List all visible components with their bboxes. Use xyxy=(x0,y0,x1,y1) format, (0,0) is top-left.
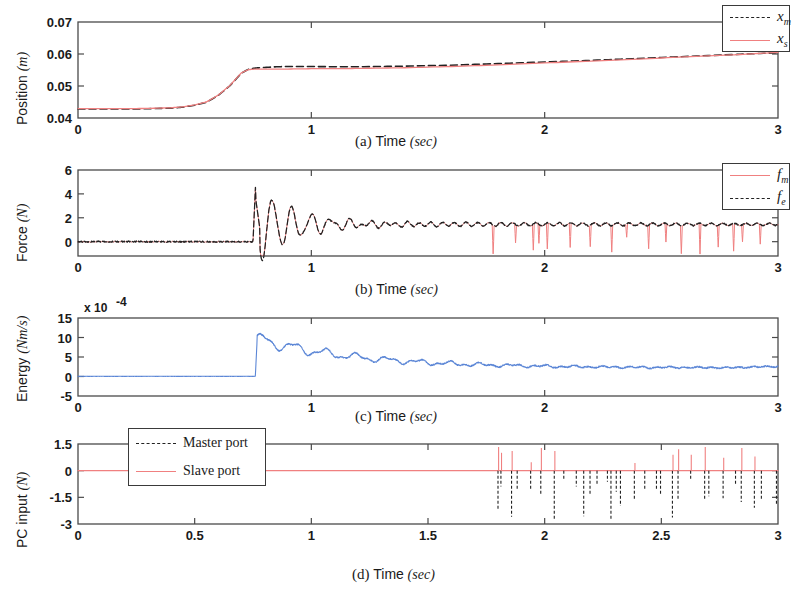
x-tick-label: 0 xyxy=(74,122,81,137)
panel-c-energy: 0123-5051015x 10-4 xyxy=(0,300,801,425)
x-tick-label: 1 xyxy=(308,400,315,415)
x-tick-label: 1 xyxy=(308,122,315,137)
panel-d-caption: (d) Time (sec) xyxy=(352,566,435,583)
y-tick-label: -3 xyxy=(60,517,72,532)
panel-d-plot: 00.511.522.53-3-1.501.5 xyxy=(0,430,801,560)
y-tick-label: 0.06 xyxy=(47,47,72,62)
dashed-line-sample-icon xyxy=(730,11,770,23)
solid-line-sample-icon xyxy=(730,169,770,181)
panel-a-position: 01230.040.050.060.07 xyxy=(0,0,801,150)
x-tick-label: 2 xyxy=(541,260,548,275)
legend-label-fm: fm xyxy=(777,166,788,185)
y-tick-label: 10 xyxy=(58,331,72,346)
panel-d-legend: Master port Slave port xyxy=(128,428,266,486)
legend-item-xm: xm xyxy=(723,6,789,29)
y-tick-label: 1.5 xyxy=(54,437,72,452)
panel-a-caption: (a) Time (sec) xyxy=(355,133,437,150)
panel-b-force: 01230246 xyxy=(0,160,801,290)
x-tick-label: 2 xyxy=(541,122,548,137)
x-tick-label: 2 xyxy=(541,400,548,415)
x-tick-label: 3 xyxy=(774,528,781,543)
x-tick-label: 3 xyxy=(774,260,781,275)
y-tick-label: 6 xyxy=(65,163,72,178)
dashed-line-sample-icon xyxy=(730,192,770,204)
y-axis-multiplier: x 10 xyxy=(84,301,108,315)
series-f_e xyxy=(78,187,778,260)
panel-a-plot: 01230.040.050.060.07 xyxy=(0,0,801,150)
panel-d-ylabel: PC input (N) xyxy=(14,472,31,548)
x-tick-label: 2 xyxy=(541,528,548,543)
panel-b-plot: 01230246 xyxy=(0,160,801,290)
series-f_m xyxy=(78,187,778,255)
solid-line-sample-icon xyxy=(136,465,176,477)
panel-a-legend: xm xs xyxy=(722,5,790,52)
panel-c-ylabel: Energy (Nm/s) xyxy=(14,316,31,402)
panel-b-caption: (b) Time (sec) xyxy=(355,281,438,298)
x-tick-label: 0.5 xyxy=(186,528,204,543)
y-tick-label: 0.05 xyxy=(47,79,72,94)
series-x_s xyxy=(78,52,778,108)
y-tick-label: 4 xyxy=(65,187,73,202)
legend-label-xm: xm xyxy=(777,8,791,27)
y-tick-label: 0 xyxy=(65,464,72,479)
solid-line-sample-icon xyxy=(730,34,770,46)
y-tick-label: -1.5 xyxy=(50,490,72,505)
x-tick-label: 1 xyxy=(308,528,315,543)
legend-item-fe: fe xyxy=(723,187,789,210)
legend-item-xs: xs xyxy=(723,29,789,52)
dashed-line-sample-icon xyxy=(136,437,176,449)
series-x_m xyxy=(78,53,778,109)
x-tick-label: 0 xyxy=(74,260,81,275)
legend-label-fe: fe xyxy=(777,188,786,207)
slave-port-spikes xyxy=(499,447,755,471)
legend-label-xs: xs xyxy=(777,30,788,49)
figure-container: 01230.040.050.060.07 Position (m) xm xs … xyxy=(0,0,801,592)
y-tick-label: 0.04 xyxy=(47,111,73,126)
x-tick-label: 3 xyxy=(774,400,781,415)
panel-b-ylabel: Force (N) xyxy=(14,204,31,262)
x-tick-label: 1 xyxy=(308,260,315,275)
y-tick-label: -5 xyxy=(60,389,72,404)
legend-label-master-port: Master port xyxy=(183,435,248,451)
master-port-spikes xyxy=(498,471,776,520)
x-tick-label: 3 xyxy=(774,122,781,137)
x-tick-label: 0 xyxy=(74,528,81,543)
y-axis-multiplier-exponent: -4 xyxy=(116,295,127,309)
panel-d-pc-input: 00.511.522.53-3-1.501.5 xyxy=(0,430,801,560)
y-tick-label: 0 xyxy=(65,370,72,385)
legend-item-master-port: Master port xyxy=(129,429,265,457)
panel-a-ylabel: Position (m) xyxy=(14,52,31,125)
panel-c-plot: 0123-5051015x 10-4 xyxy=(0,300,801,425)
y-tick-label: 0 xyxy=(65,235,72,250)
y-tick-label: 2 xyxy=(65,211,72,226)
legend-item-slave-port: Slave port xyxy=(129,457,265,485)
x-tick-label: 2.5 xyxy=(652,528,670,543)
y-tick-label: 15 xyxy=(58,311,72,326)
y-tick-label: 0.07 xyxy=(47,15,72,30)
panel-b-legend: fm fe xyxy=(722,163,790,210)
x-tick-label: 1.5 xyxy=(419,528,437,543)
panel-c-caption: (c) Time (sec) xyxy=(355,408,437,425)
x-tick-label: 0 xyxy=(74,400,81,415)
y-tick-label: 5 xyxy=(65,350,72,365)
legend-label-slave-port: Slave port xyxy=(183,463,240,479)
legend-item-fm: fm xyxy=(723,164,789,187)
series-energy xyxy=(78,333,778,376)
